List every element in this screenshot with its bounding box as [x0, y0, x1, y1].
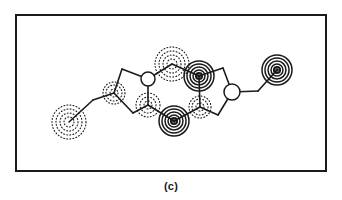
- panel-caption: (c): [164, 180, 178, 193]
- contour-peak-core: [197, 74, 201, 78]
- bond-n5-n7: [133, 105, 148, 113]
- right-ring-substituent-open-circle: [224, 84, 240, 100]
- density-map-canvas: [0, 0, 342, 200]
- bond-n1-n2: [69, 100, 93, 122]
- contour-layer: [52, 47, 292, 139]
- contour-bridge-bottom-positive-peak: [159, 106, 189, 136]
- contour-peak-core: [275, 68, 279, 72]
- caption-row: (c): [0, 176, 342, 194]
- bond-n15-n16: [258, 70, 277, 91]
- ring-fusion-top-left-open-circle: [141, 72, 155, 86]
- figure-panel: (c): [0, 0, 342, 200]
- contour-right-terminal-positive-peak: [262, 55, 292, 85]
- contour-peak-core: [172, 119, 176, 123]
- plot-frame: [16, 15, 326, 171]
